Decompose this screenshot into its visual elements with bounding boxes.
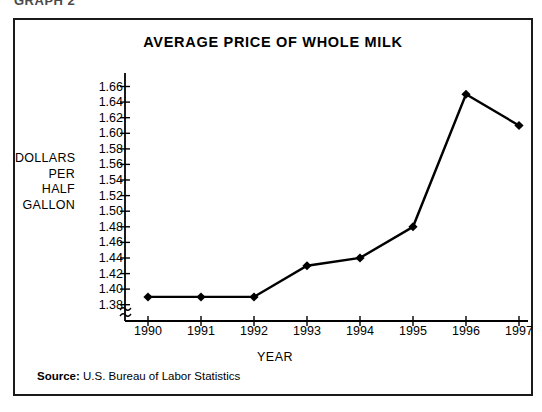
x-axis-tick-labels: 1990 1991 1992 1993 1994 1995 1996 1997 <box>15 20 535 398</box>
cropped-header-strip: GRAPH 2 <box>14 0 134 8</box>
x-tick-label: 1997 <box>489 324 542 338</box>
x-tick-label: 1993 <box>277 324 337 338</box>
x-tick-label: 1990 <box>118 324 178 338</box>
source-note: Source: U.S. Bureau of Labor Statistics <box>37 370 240 382</box>
x-tick-label: 1991 <box>171 324 231 338</box>
x-tick-label: 1992 <box>224 324 284 338</box>
x-tick-label: 1996 <box>436 324 496 338</box>
x-tick-label: 1994 <box>330 324 390 338</box>
plot-area: 1.66 1.64 1.62 1.60 1.58 1.56 1.54 1.52 … <box>15 20 535 398</box>
source-value: U.S. Bureau of Labor Statistics <box>83 370 240 382</box>
source-label: Source: <box>37 370 80 382</box>
x-axis-title: YEAR <box>15 350 535 364</box>
cropped-header-text: GRAPH 2 <box>14 0 134 8</box>
chart-figure-box: AVERAGE PRICE OF WHOLE MILK <box>13 18 533 396</box>
x-tick-label: 1995 <box>383 324 443 338</box>
